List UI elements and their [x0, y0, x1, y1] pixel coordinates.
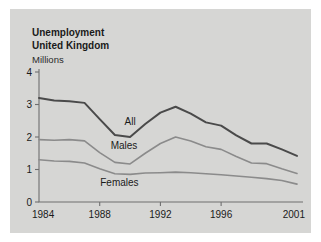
y-tick-label: 1 — [26, 164, 32, 175]
series-line-all — [39, 98, 297, 156]
y-tick-label: 3 — [26, 99, 32, 110]
chart-figure: Unemployment United Kingdom Millions 012… — [10, 9, 311, 233]
chart-series-lines — [39, 98, 297, 184]
series-line-males — [39, 137, 297, 173]
chart-axes — [35, 69, 303, 206]
unemployment-line-chart: Unemployment United Kingdom Millions 012… — [10, 9, 311, 233]
chart-unit-label: Millions — [32, 54, 64, 65]
x-tick-label: 1992 — [149, 209, 172, 220]
series-label-all: All — [124, 116, 135, 127]
chart-title-line-1: Unemployment — [32, 27, 105, 38]
series-label-females: Females — [100, 177, 138, 188]
x-tick-label: 2001 — [283, 209, 306, 220]
y-axis-tick-labels: 01234 — [26, 67, 32, 208]
chart-title-line-2: United Kingdom — [32, 40, 109, 51]
y-tick-label: 0 — [26, 197, 32, 208]
y-tick-label: 2 — [26, 132, 32, 143]
x-tick-label: 1988 — [89, 209, 112, 220]
x-axis-tick-labels: 19841988199219962001 — [32, 209, 305, 220]
chart-titles: Unemployment United Kingdom Millions — [32, 27, 109, 65]
series-label-males: Males — [111, 140, 138, 151]
y-tick-label: 4 — [26, 67, 32, 78]
x-tick-label: 1996 — [210, 209, 233, 220]
x-tick-label: 1984 — [32, 209, 55, 220]
